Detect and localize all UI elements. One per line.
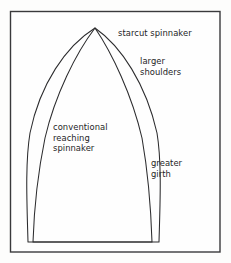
figure-border bbox=[11, 12, 221, 253]
starcut-spinnaker-label: starcut spinnaker bbox=[118, 28, 192, 39]
conventional-spinnaker-label: conventional reaching spinnaker bbox=[53, 122, 108, 154]
diagram-canvas bbox=[0, 0, 231, 263]
spinnaker-comparison-figure: starcut spinnaker larger shoulders conve… bbox=[0, 0, 231, 263]
larger-shoulders-label: larger shoulders bbox=[140, 56, 181, 77]
greater-girth-label: greater girth bbox=[151, 158, 182, 179]
